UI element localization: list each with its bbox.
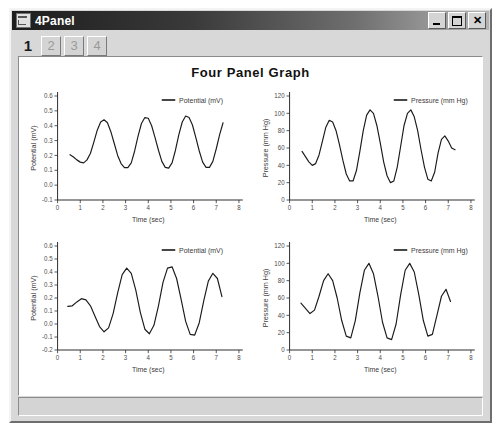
svg-text:2: 2 [101,354,105,361]
svg-text:0.3: 0.3 [44,281,53,288]
svg-text:0.6: 0.6 [44,92,53,99]
svg-text:0: 0 [287,354,291,361]
close-icon: ✕ [469,13,485,28]
app-icon [16,13,31,28]
svg-text:0.5: 0.5 [44,107,53,114]
title-bar[interactable]: 4Panel ✕ [12,11,489,30]
svg-text:80: 80 [277,127,284,134]
chart-top-right: 020406080100120012345678Time (sec)Pressu… [251,80,483,230]
svg-text:Potential (mV): Potential (mV) [30,275,38,321]
svg-text:0.1: 0.1 [44,307,53,314]
svg-text:Pressure (mm Hg): Pressure (mm Hg) [411,96,468,104]
svg-text:0.2: 0.2 [44,294,53,301]
svg-text:3: 3 [124,354,128,361]
svg-text:0.4: 0.4 [44,122,53,129]
svg-text:Potential (mV): Potential (mV) [179,246,223,254]
svg-text:5: 5 [401,354,405,361]
minimize-button[interactable] [428,12,446,29]
svg-text:4: 4 [378,204,382,211]
svg-text:3: 3 [355,354,359,361]
svg-text:80: 80 [277,277,284,284]
svg-text:Time (sec): Time (sec) [364,366,396,374]
svg-text:40: 40 [277,311,284,318]
page-title: Four Panel Graph [19,57,482,80]
svg-text:6: 6 [423,204,427,211]
svg-text:7: 7 [215,354,219,361]
svg-text:0: 0 [287,204,291,211]
svg-text:100: 100 [274,259,285,266]
svg-text:-0.1: -0.1 [42,196,53,203]
svg-text:-0.1: -0.1 [42,333,53,340]
svg-text:7: 7 [446,354,450,361]
svg-text:4: 4 [147,204,151,211]
chart-bottom-right: 020406080100120012345678Time (sec)Pressu… [251,230,483,380]
tab-panel-3[interactable]: 3 [64,36,84,56]
svg-text:0.0: 0.0 [44,320,53,327]
svg-text:4: 4 [147,354,151,361]
svg-text:2: 2 [333,204,337,211]
svg-text:20: 20 [277,329,284,336]
svg-text:Time (sec): Time (sec) [132,216,164,224]
svg-text:0: 0 [56,204,60,211]
panel-tab-strip: 1 2 3 4 [14,32,487,56]
svg-text:60: 60 [277,294,284,301]
graph-panel-grid: -0.10.00.10.20.30.40.50.6012345678Time (… [19,80,482,380]
svg-text:0: 0 [56,354,60,361]
svg-text:1: 1 [310,204,314,211]
svg-text:6: 6 [192,204,196,211]
window-title: 4Panel [35,14,428,28]
svg-text:120: 120 [274,242,285,249]
svg-text:0.6: 0.6 [44,242,53,249]
svg-text:Potential (mV): Potential (mV) [179,96,223,104]
panel-top-left[interactable]: -0.10.00.10.20.30.40.50.6012345678Time (… [19,80,251,230]
svg-text:8: 8 [237,204,241,211]
svg-text:5: 5 [401,204,405,211]
panel-bottom-left[interactable]: -0.2-0.10.00.10.20.30.40.50.6012345678Ti… [19,230,251,380]
svg-text:Pressure (mm Hg): Pressure (mm Hg) [262,269,270,328]
graph-canvas: Four Panel Graph -0.10.00.10.20.30.40.50… [18,56,483,396]
tab-panel-1[interactable]: 1 [18,36,38,56]
svg-text:3: 3 [355,204,359,211]
svg-text:5: 5 [169,354,173,361]
svg-text:0.0: 0.0 [44,181,53,188]
svg-text:2: 2 [101,204,105,211]
svg-text:0.1: 0.1 [44,166,53,173]
svg-text:2: 2 [333,354,337,361]
svg-text:8: 8 [469,204,473,211]
svg-text:Potential (mV): Potential (mV) [30,125,38,171]
svg-text:1: 1 [79,204,83,211]
svg-text:8: 8 [237,354,241,361]
maximize-button[interactable] [448,12,466,29]
svg-text:Pressure (mm Hg): Pressure (mm Hg) [411,246,468,254]
panel-top-right[interactable]: 020406080100120012345678Time (sec)Pressu… [251,80,483,230]
svg-text:Time (sec): Time (sec) [132,366,164,374]
svg-text:3: 3 [124,204,128,211]
window-controls: ✕ [428,12,487,29]
chart-top-left: -0.10.00.10.20.30.40.50.6012345678Time (… [19,80,251,230]
svg-text:6: 6 [423,354,427,361]
status-bar [18,397,483,416]
close-button[interactable]: ✕ [468,12,486,29]
svg-text:40: 40 [277,161,284,168]
client-area: 1 2 3 4 Four Panel Graph -0.10.00.10.20.… [14,32,487,418]
tab-panel-4[interactable]: 4 [87,36,107,56]
svg-text:7: 7 [446,204,450,211]
svg-text:5: 5 [169,204,173,211]
svg-text:-0.2: -0.2 [42,346,53,353]
svg-text:Pressure (mm Hg): Pressure (mm Hg) [262,119,270,178]
svg-text:6: 6 [192,354,196,361]
svg-text:0.4: 0.4 [44,268,53,275]
svg-text:100: 100 [274,109,285,116]
svg-text:0: 0 [281,196,285,203]
tab-panel-2[interactable]: 2 [41,36,61,56]
svg-text:20: 20 [277,179,284,186]
application-window: 4Panel ✕ 1 2 3 4 Four Panel Graph -0.10.… [9,8,492,423]
svg-text:120: 120 [274,92,285,99]
svg-text:0.2: 0.2 [44,152,53,159]
panel-bottom-right[interactable]: 020406080100120012345678Time (sec)Pressu… [251,230,483,380]
svg-text:Time (sec): Time (sec) [364,216,396,224]
svg-text:8: 8 [469,354,473,361]
svg-text:0: 0 [281,346,285,353]
svg-text:1: 1 [79,354,83,361]
svg-text:1: 1 [310,354,314,361]
